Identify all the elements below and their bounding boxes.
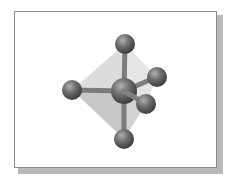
atom-axial-bottom: [114, 129, 134, 149]
trigonal-bipyramidal-molecule: [0, 0, 235, 178]
atom-equatorial-back-right: [147, 67, 167, 87]
atom-axial-top: [115, 34, 135, 54]
figure-canvas: [0, 0, 235, 178]
atom-equatorial-left: [62, 80, 82, 100]
atom-equatorial-front-right: [136, 94, 156, 114]
